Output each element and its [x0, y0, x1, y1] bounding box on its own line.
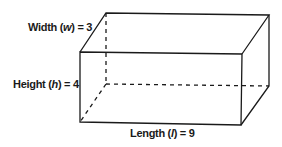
length-var: l: [171, 127, 174, 139]
height-var: h: [52, 78, 58, 90]
front-face: [80, 52, 242, 125]
top-face-edges: [80, 13, 269, 54]
width-label: Width (w) = 3: [28, 21, 92, 33]
height-label-name: Height: [13, 78, 45, 90]
right-face-edges: [241, 15, 269, 125]
length-value: 9: [189, 127, 195, 139]
length-label: Length (l) = 9: [130, 127, 195, 139]
width-var: w: [63, 21, 71, 33]
height-label: Height (h) = 4: [13, 78, 79, 90]
prism-diagram: Width (w) = 3 Height (h) = 4 Length (l) …: [0, 0, 282, 147]
length-label-name: Length: [130, 127, 165, 139]
width-value: 3: [86, 21, 92, 33]
width-label-name: Width: [28, 21, 57, 33]
height-value: 4: [73, 78, 79, 90]
